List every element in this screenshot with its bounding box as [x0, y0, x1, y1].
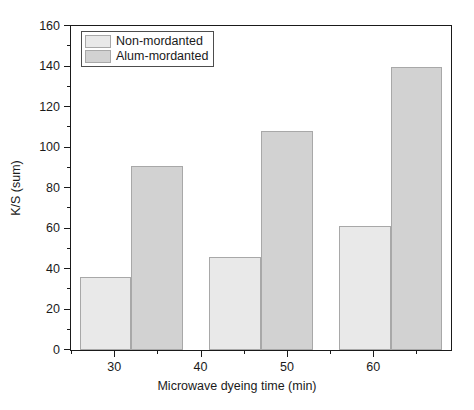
legend-label: Non-mordanted: [116, 35, 203, 48]
x-axis-tick-label: 50: [280, 361, 294, 374]
y-axis-title-text: K/S (sum): [9, 160, 23, 216]
plot-frame: 02040608010012014016030405060 Non-mordan…: [70, 25, 452, 351]
y-axis-minor-tick: [67, 329, 71, 330]
y-axis-tick: [64, 147, 71, 148]
y-axis-tick-label: 40: [46, 263, 60, 276]
x-axis-tick-label: 60: [366, 361, 380, 374]
y-axis-tick: [64, 106, 71, 107]
y-axis-tick-label: 140: [39, 60, 60, 73]
y-axis-tick-label: 80: [46, 182, 60, 195]
bar: [261, 131, 313, 350]
x-axis-title: Microwave dyeing time (min): [0, 379, 474, 393]
bar: [339, 226, 391, 350]
bar: [391, 67, 443, 351]
x-axis-minor-tick: [330, 350, 331, 354]
legend-swatch: [85, 50, 111, 63]
y-axis-tick-label: 100: [39, 141, 60, 154]
y-axis-minor-tick: [67, 45, 71, 46]
y-axis-tick-label: 60: [46, 222, 60, 235]
y-axis-minor-tick: [67, 248, 71, 249]
x-axis-minor-tick: [416, 350, 417, 354]
x-axis-tick-label: 40: [194, 361, 208, 374]
chart-legend: Non-mordantedAlum-mordanted: [81, 31, 214, 67]
x-axis-tick: [373, 350, 374, 357]
y-axis-tick: [64, 25, 71, 26]
bar: [131, 166, 183, 350]
y-axis-tick: [64, 187, 71, 188]
x-axis-tick-label: 30: [107, 361, 121, 374]
legend-item: Alum-mordanted: [85, 49, 208, 64]
y-axis-minor-tick: [67, 126, 71, 127]
y-axis-title: K/S (sum): [6, 0, 26, 376]
y-axis-tick: [64, 268, 71, 269]
y-axis-tick-label: 20: [46, 303, 60, 316]
y-axis-minor-tick: [67, 167, 71, 168]
y-axis-tick-label: 160: [39, 20, 60, 33]
plot-area: 02040608010012014016030405060: [71, 26, 451, 350]
bar: [80, 277, 132, 350]
y-axis-minor-tick: [67, 86, 71, 87]
x-axis-minor-tick: [157, 350, 158, 354]
y-axis-minor-tick: [67, 207, 71, 208]
x-axis-minor-tick: [71, 350, 72, 354]
x-axis-minor-tick: [244, 350, 245, 354]
legend-item: Non-mordanted: [85, 34, 208, 49]
y-axis-tick: [64, 228, 71, 229]
chart-figure: K/S (sum) 02040608010012014016030405060 …: [0, 0, 474, 410]
legend-label: Alum-mordanted: [116, 50, 208, 63]
y-axis-tick-label: 0: [53, 344, 60, 357]
y-axis-tick-label: 120: [39, 101, 60, 114]
y-axis-tick: [64, 309, 71, 310]
bar: [209, 257, 261, 350]
x-axis-tick: [201, 350, 202, 357]
y-axis-tick: [64, 349, 71, 350]
y-axis-minor-tick: [67, 288, 71, 289]
legend-swatch: [85, 35, 111, 48]
x-axis-tick: [114, 350, 115, 357]
x-axis-tick: [287, 350, 288, 357]
y-axis-tick: [64, 66, 71, 67]
